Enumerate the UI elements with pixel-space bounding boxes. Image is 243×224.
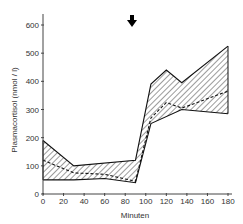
x-tick-label: 0: [41, 197, 46, 206]
x-axis-label: Minuten: [121, 211, 149, 220]
x-tick-label: 80: [121, 197, 130, 206]
range-band: [43, 46, 228, 183]
hatched-band: [43, 46, 228, 183]
x-tick-label: 40: [80, 197, 89, 206]
arrow-down-icon: [127, 15, 137, 27]
y-tick-label: 0: [35, 190, 40, 199]
y-tick-label: 100: [26, 162, 40, 171]
x-tick-label: 140: [180, 197, 194, 206]
cortisol-chart: 0100200300400500600020406080100120140160…: [0, 0, 243, 224]
y-tick-label: 400: [26, 77, 40, 86]
x-tick-label: 100: [139, 197, 153, 206]
y-tick-label: 300: [26, 106, 40, 115]
y-axis-label: Plasmacortisol (nmol / l): [10, 67, 19, 153]
y-tick-label: 600: [26, 21, 40, 30]
y-tick-label: 200: [26, 134, 40, 143]
x-tick-label: 160: [201, 197, 215, 206]
x-tick-label: 120: [160, 197, 174, 206]
x-tick-label: 180: [221, 197, 235, 206]
x-tick-label: 60: [100, 197, 109, 206]
x-tick-label: 20: [59, 197, 68, 206]
y-tick-label: 500: [26, 49, 40, 58]
